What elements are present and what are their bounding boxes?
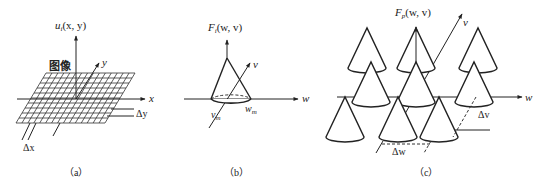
- delta-y-label: Δy: [136, 108, 147, 119]
- panel-a: ui(x, y) x y 图像 Δy Δx （a）: [16, 19, 154, 178]
- f-axis-label-c: Fp(w, v): [394, 6, 431, 20]
- v-m-label: vm: [211, 109, 221, 122]
- caption-b: （b）: [224, 167, 249, 178]
- cone: [459, 28, 497, 73]
- delta-v-label: Δv: [478, 109, 489, 120]
- y-axis-label: y: [101, 56, 107, 68]
- caption-a: （a）: [64, 167, 88, 178]
- caption-c: （c）: [414, 167, 438, 178]
- delta-x-label: Δx: [23, 142, 34, 153]
- panel-c: v w Fp(w, v) Δv Δw （c）: [326, 6, 533, 178]
- figure: ui(x, y) x y 图像 Δy Δx （a） v w: [0, 0, 538, 191]
- w-m-label: wm: [245, 103, 257, 116]
- y-axis-extension: [53, 123, 60, 136]
- u-axis-label: ui(x, y): [55, 19, 87, 33]
- f-axis-label: Fi(w, v): [207, 21, 243, 35]
- w-axis-label-c: w: [525, 91, 533, 103]
- cone-array: [326, 28, 497, 142]
- delta-w-tick-left: [376, 141, 383, 153]
- w-axis-label: w: [302, 92, 310, 104]
- image-label: 图像: [49, 59, 72, 73]
- cone: [348, 28, 386, 73]
- delta-w-label: Δw: [392, 146, 406, 157]
- x-axis-label: x: [148, 92, 154, 104]
- panel-b: v w Fi(w, v) wm vm （b）: [184, 21, 310, 178]
- cone: [211, 58, 251, 103]
- delta-w-tick-right: [424, 141, 431, 153]
- v-axis-label: v: [253, 58, 258, 70]
- v-axis-label-c: v: [463, 16, 468, 28]
